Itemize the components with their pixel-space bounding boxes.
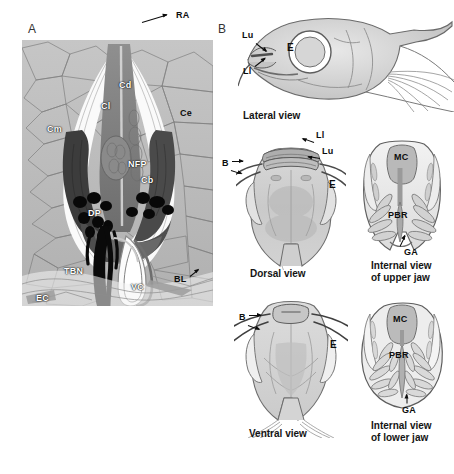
panel-a-label-ce: Ce	[180, 108, 192, 118]
lateral-view-caption: Lateral view	[243, 110, 300, 122]
panel-a-histology-image	[22, 40, 213, 306]
panel-a-letter: A	[28, 22, 36, 36]
dorsal-label-e: E	[329, 179, 336, 190]
arrow-b-ventral-1	[249, 315, 261, 316]
lower-jaw-label-pbr: PBR	[389, 350, 409, 360]
upper-jaw-label-pbr: PBR	[388, 210, 408, 220]
panel-b-letter: B	[218, 22, 226, 36]
panel-a-label-vc: VC	[131, 282, 144, 292]
dorsal-label-lu: Lu	[322, 146, 333, 156]
panel-a-label-cl: Cl	[101, 101, 110, 111]
panel-a-section-graphic	[22, 40, 213, 306]
upper-jaw-caption: Internal view of upper jaw	[371, 260, 432, 284]
panel-a-label-nfp: NFP	[128, 159, 147, 169]
lower-jaw-label-mc: MC	[393, 314, 407, 324]
panel-a-label-ec: EC	[36, 293, 49, 303]
upper-jaw-label-mc: MC	[394, 152, 408, 162]
ventral-label-b: B	[239, 312, 246, 322]
lateral-label-ll: Ll	[243, 66, 251, 76]
lateral-label-lu: Lu	[242, 30, 253, 40]
dorsal-label-b: B	[222, 158, 229, 168]
lower-jaw-label-ga: GA	[402, 405, 416, 415]
ventral-label-e: E	[330, 339, 337, 350]
panel-a-label-dp: DP	[88, 208, 101, 218]
panel-a-label-tbn: TBN	[64, 266, 83, 276]
dorsal-view-drawing	[236, 140, 346, 270]
panel-a-label-cd: Cd	[119, 80, 131, 90]
panel-a-label-cb: Cb	[141, 175, 153, 185]
dorsal-view-caption: Dorsal view	[250, 268, 306, 280]
ventral-view-caption: Ventral view	[249, 428, 307, 440]
lower-jaw-caption: Internal view of lower jaw	[371, 420, 432, 444]
panel-a-label-cm: Cm	[47, 124, 62, 134]
lateral-label-e: E	[287, 42, 294, 53]
arrow-ra	[142, 14, 167, 23]
upper-jaw-label-ga: GA	[404, 247, 418, 257]
ventral-view-drawing	[234, 298, 348, 438]
arrow-b-dorsal-2	[231, 170, 242, 174]
scientific-figure: A	[0, 0, 454, 474]
panel-a-label-bl: BL	[174, 274, 186, 284]
dorsal-label-ll: Ll	[316, 130, 324, 140]
arrow-b-dorsal-1	[232, 161, 243, 162]
lateral-view-drawing	[238, 12, 454, 112]
panel-a-label-ra: RA	[176, 10, 189, 20]
arrow-ga-lower	[407, 395, 408, 404]
